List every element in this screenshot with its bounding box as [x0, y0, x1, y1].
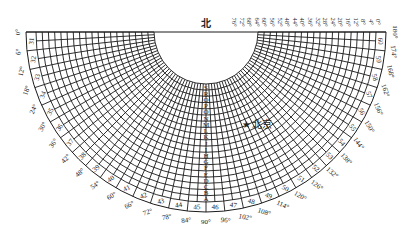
ring-letter-column: SRQPONMLKJIHGFEDCBA	[203, 84, 210, 204]
outer-degree-label: 162°	[379, 83, 391, 98]
outer-degree-label: 30°	[37, 120, 49, 133]
outer-degree-label: 48°	[74, 166, 87, 179]
top-degree-labels: 76°72°68°64°60°56°52°48°44°40°36°32°28°2…	[231, 17, 382, 27]
band-number: 32	[29, 55, 38, 64]
top-degree-label: 40°	[299, 17, 306, 27]
top-degree-label: 28°	[322, 17, 329, 27]
outer-degree-label: 114°	[275, 199, 290, 212]
outer-degree-label: 108°	[257, 206, 272, 218]
outer-degree-label: 90°	[201, 218, 211, 226]
top-degree-label: 8°	[360, 19, 367, 25]
band-number: 57	[364, 90, 374, 100]
band-number: 47	[229, 201, 238, 210]
outer-degree-label: 24°	[28, 103, 39, 115]
band-number: 44	[175, 201, 184, 210]
top-degree-label: 52°	[277, 17, 284, 27]
top-degree-label: 48°	[284, 17, 291, 27]
outer-degree-label: 120°	[292, 189, 308, 203]
top-degree-label: 4°	[368, 19, 375, 25]
band-number: 42	[139, 191, 149, 201]
band-number: 60	[376, 37, 384, 45]
band-number: 46	[211, 203, 219, 211]
outer-degree-label: 78°	[161, 212, 172, 222]
outer-degree-label: 96°	[220, 216, 231, 225]
polar-grid-diagram: 3132333435363738394041424344454647484950…	[0, 0, 409, 239]
top-degree-label: 20°	[337, 17, 344, 27]
outer-degree-label: 102°	[238, 212, 253, 223]
band-number: 45	[193, 203, 201, 211]
top-degree-label: 24°	[330, 17, 337, 27]
ring-letter: A	[203, 195, 208, 203]
top-degree-label: 68°	[246, 17, 253, 27]
outer-degree-label: 66°	[123, 199, 135, 210]
outer-degree-label: 84°	[181, 216, 192, 225]
beijing-marker: ★ 北京	[242, 118, 273, 130]
outer-degree-label: 156°	[372, 101, 385, 117]
top-degree-label: 44°	[292, 17, 299, 27]
top-degree-label: 16°	[345, 17, 352, 27]
top-degree-label: 64°	[254, 17, 261, 27]
outer-degree-label: 168°	[385, 64, 396, 79]
outer-degree-label: 144°	[351, 136, 365, 152]
top-degree-label: 76°	[231, 17, 238, 27]
north-label: 北	[201, 17, 211, 29]
top-degree-label: 12°	[353, 17, 360, 27]
outer-degree-label: 180°	[391, 25, 399, 39]
band-number: 59	[374, 55, 383, 64]
top-degree-label: 0°	[375, 19, 382, 25]
star-icon: ★	[242, 119, 251, 130]
band-number: 43	[156, 197, 165, 207]
outer-degree-label: 6°	[14, 48, 23, 55]
outer-degree-label: 126°	[309, 178, 325, 192]
outer-degree-label: 138°	[339, 151, 354, 166]
outer-degree-label: 150°	[362, 119, 376, 135]
outer-degree-label: 132°	[325, 165, 340, 180]
top-degree-label: 36°	[307, 17, 314, 27]
outer-degree-label: 60°	[106, 190, 119, 202]
outer-degree-label: 12°	[17, 66, 27, 77]
band-number: 58	[370, 73, 380, 82]
outer-degree-label: 174°	[389, 45, 398, 59]
outer-degree-label: 42°	[60, 152, 73, 165]
top-degree-label: 32°	[315, 17, 322, 27]
outer-degree-label: 18°	[21, 84, 32, 96]
band-number: 31	[28, 37, 36, 45]
outer-degree-label: 36°	[47, 137, 59, 150]
outer-degree-label: 54°	[89, 179, 102, 191]
top-degree-label: 56°	[269, 17, 276, 27]
top-degree-label: 72°	[239, 17, 246, 27]
top-degree-label: 60°	[261, 17, 268, 27]
outer-degree-label: 72°	[142, 207, 154, 218]
outer-degree-label: 0°	[14, 29, 22, 36]
city-label: 北京	[252, 118, 272, 130]
